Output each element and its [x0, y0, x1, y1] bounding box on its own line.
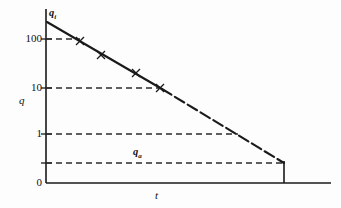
y-tick-label-100: 100	[8, 33, 42, 44]
qa-annotation: qa	[133, 147, 142, 160]
chart-canvas	[0, 0, 341, 208]
data-marker	[76, 37, 84, 45]
x-axis-label: t	[155, 190, 158, 201]
decline-curve-solid	[47, 22, 162, 89]
decline-curve-chart: 100 10 1 0 q t qi qa	[0, 0, 341, 208]
y-tick-label-1: 1	[8, 128, 42, 139]
qi-annotation-subscript: i	[54, 13, 56, 21]
qa-annotation-subscript: a	[138, 152, 142, 160]
y-tick-label-0: 0	[8, 177, 42, 188]
y-axis-label: q	[19, 95, 25, 106]
y-tick-label-10: 10	[8, 82, 42, 93]
qi-annotation: qi	[49, 8, 56, 21]
decline-curve-extrapolation	[162, 89, 284, 163]
